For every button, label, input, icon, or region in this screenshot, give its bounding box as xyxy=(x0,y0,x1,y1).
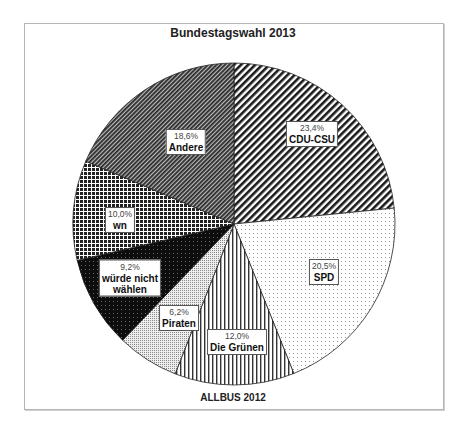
pie-chart xyxy=(0,0,466,432)
label-name: Piraten xyxy=(162,318,196,329)
label-pct: 9,2% xyxy=(102,262,158,273)
label-pct: 20,5% xyxy=(312,261,336,272)
label-pct: 23,4% xyxy=(289,123,335,134)
label-name: SPD xyxy=(312,272,336,283)
label-pct: 12,0% xyxy=(210,331,264,342)
chart-title: Bundestagswahl 2013 xyxy=(0,26,466,40)
label-pct: 18,6% xyxy=(169,131,203,142)
source-note: ALLBUS 2012 xyxy=(0,392,466,403)
label-piraten: 6,2% Piraten xyxy=(159,305,199,331)
label-spd: 20,5% SPD xyxy=(309,259,339,285)
label-name: CDU-CSU xyxy=(289,134,335,145)
label-name: Andere xyxy=(169,142,203,153)
label-die-gruenen: 12,0% Die Grünen xyxy=(207,329,267,355)
label-andere: 18,6% Andere xyxy=(166,129,206,155)
label-name-line1: würde nicht xyxy=(102,273,158,284)
label-name: Die Grünen xyxy=(210,342,264,353)
label-name: wn xyxy=(108,220,132,231)
label-pct: 10,0% xyxy=(108,209,132,220)
label-name-line2: wählen xyxy=(102,284,158,295)
label-wuerde-nicht-waehlen: 9,2% würde nicht wählen xyxy=(99,260,161,297)
label-pct: 6,2% xyxy=(162,307,196,318)
label-cdu-csu: 23,4% CDU-CSU xyxy=(286,121,338,147)
label-wn: 10,0% wn xyxy=(105,207,135,233)
